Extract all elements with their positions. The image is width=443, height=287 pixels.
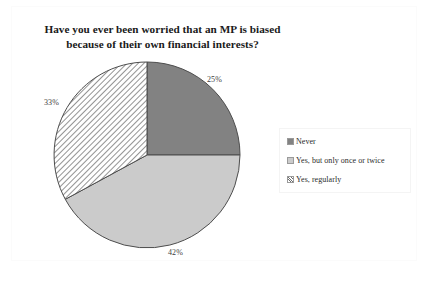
swatch-regularly-icon — [287, 176, 294, 183]
swatch-never-icon — [287, 138, 294, 145]
pie-slice-never[interactable] — [147, 62, 240, 155]
pie-label-never: 25% — [207, 75, 222, 84]
plot-area — [54, 62, 240, 248]
legend-label-regularly: Yes, regularly — [296, 175, 341, 184]
pie-label-regularly: 33% — [44, 98, 59, 107]
legend-item-regularly[interactable]: Yes, regularly — [287, 174, 404, 185]
chart-title: Have you ever been worried that an MP is… — [30, 22, 295, 52]
pie-svg — [54, 62, 240, 248]
chart-legend: Never Yes, but only once or twice Yes, r… — [279, 128, 411, 193]
chart-title-line-2: because of their own financial interests… — [30, 37, 295, 52]
swatch-once-icon — [287, 157, 294, 164]
pie-label-once-or-twice: 42% — [168, 248, 183, 257]
legend-label-never: Never — [296, 137, 316, 146]
chart-title-line-1: Have you ever been worried that an MP is… — [30, 22, 295, 37]
legend-label-once-or-twice: Yes, but only once or twice — [296, 156, 385, 165]
legend-item-once-or-twice[interactable]: Yes, but only once or twice — [287, 155, 404, 166]
pie-chart-figure: Have you ever been worried that an MP is… — [0, 0, 443, 287]
legend-item-never[interactable]: Never — [287, 136, 404, 147]
